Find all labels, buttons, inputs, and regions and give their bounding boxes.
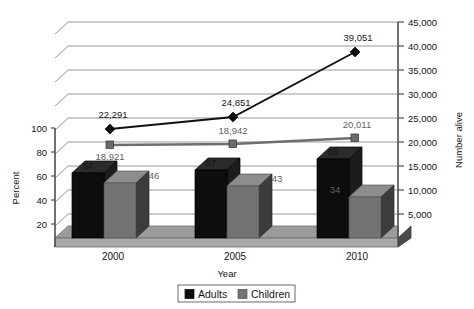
bar-children-2005[interactable] — [227, 174, 272, 238]
legend-item-children[interactable]: Children — [238, 288, 290, 300]
right-tick-45000: 45,000 — [408, 17, 437, 28]
line-adults-number-alive-labels: 22,291 24,851 39,051 — [98, 32, 372, 120]
right-tick-15000: 15,000 — [408, 161, 437, 172]
marker-diamond-2005[interactable] — [228, 112, 238, 122]
bar-children-2000[interactable] — [104, 171, 149, 238]
legend-swatch-children — [238, 290, 247, 299]
right-tick-10000: 10,000 — [408, 185, 437, 196]
left-tick-100: 100 — [31, 123, 47, 134]
point-label-children-2010: 20,011 — [343, 119, 371, 130]
bar-group-2010: 66 34 — [317, 146, 394, 238]
y-axis-title: Percent — [10, 171, 21, 204]
bar-group-2000: 54 46 — [72, 160, 159, 238]
x-tick-2000: 2000 — [102, 251, 125, 262]
line-children-number-alive — [106, 134, 359, 149]
left-tick-40: 40 — [36, 195, 47, 206]
right-tick-35000: 35,000 — [408, 65, 437, 76]
marker-square-2005[interactable] — [229, 140, 237, 148]
point-label-children-2005: 18,942 — [218, 125, 247, 136]
right-tick-40000: 40,000 — [408, 41, 437, 52]
x-tick-2010: 2010 — [346, 251, 369, 262]
right-axis-tick-labels: 45,000 40,000 35,000 30,000 25,000 20,00… — [408, 17, 437, 220]
left-axis — [51, 128, 55, 247]
point-label-adults-2010: 39,051 — [343, 32, 372, 43]
point-label-adults-2005: 24,851 — [221, 97, 250, 108]
point-label-children-2000: 18,921 — [95, 151, 124, 162]
bar-children-2010[interactable] — [349, 185, 394, 238]
marker-square-2000[interactable] — [106, 141, 114, 149]
x-axis-title: Year — [217, 268, 236, 279]
right-tick-30000: 30,000 — [408, 89, 437, 100]
right-tick-20000: 20,000 — [408, 137, 437, 148]
legend-swatch-adults — [185, 290, 194, 299]
marker-square-2010[interactable] — [351, 134, 359, 142]
line-adults-number-alive — [105, 47, 360, 134]
left-axis-tick-labels: 100 80 60 40 20 — [31, 123, 47, 230]
legend-label-adults: Adults — [198, 288, 227, 300]
legend-item-adults[interactable]: Adults — [185, 288, 227, 300]
right-tick-25000: 25,000 — [408, 113, 437, 124]
right-tick-5000: 5,000 — [408, 209, 432, 220]
bar-label-adults-2000: 54 — [83, 160, 94, 171]
chart-container: 100 80 60 40 20 Percent 45,000 40,000 35… — [0, 0, 474, 309]
marker-diamond-2000[interactable] — [105, 124, 115, 134]
x-axis-tick-labels: 2000 2005 2010 — [102, 251, 369, 262]
left-tick-60: 60 — [36, 171, 47, 182]
combo-chart: 100 80 60 40 20 Percent 45,000 40,000 35… — [0, 0, 474, 309]
legend: Adults Children — [178, 285, 295, 302]
marker-diamond-2010[interactable] — [350, 47, 360, 57]
bar-label-adults-2005: 57 — [206, 157, 217, 168]
right-axis — [398, 22, 404, 238]
bar-label-children-2005: 43 — [272, 173, 283, 184]
bar-group-2005: 57 43 — [195, 157, 282, 238]
left-tick-20: 20 — [36, 219, 47, 230]
bar-label-children-2000: 46 — [149, 170, 160, 181]
x-tick-2005: 2005 — [224, 251, 247, 262]
left-tick-80: 80 — [36, 147, 47, 158]
bar-label-adults-2010: 66 — [328, 146, 339, 157]
y2-axis-title: Number alive — [453, 112, 464, 168]
legend-label-children: Children — [251, 288, 290, 300]
point-label-adults-2000: 22,291 — [98, 109, 127, 120]
bar-label-children-2010: 34 — [330, 184, 341, 195]
